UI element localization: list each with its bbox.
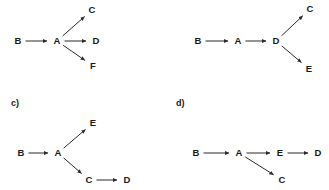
panel-d: d)BAEDC [0, 0, 329, 190]
node-B: B [193, 148, 200, 158]
panel-d-edges [0, 0, 329, 190]
node-A: A [236, 148, 243, 158]
node-D: D [315, 148, 322, 158]
graph-figure: BACDFBADCEc)BAECDd)BAEDC [0, 0, 329, 190]
node-C: C [279, 175, 286, 185]
node-E: E [277, 148, 283, 158]
edge-A-to-C [245, 157, 273, 175]
